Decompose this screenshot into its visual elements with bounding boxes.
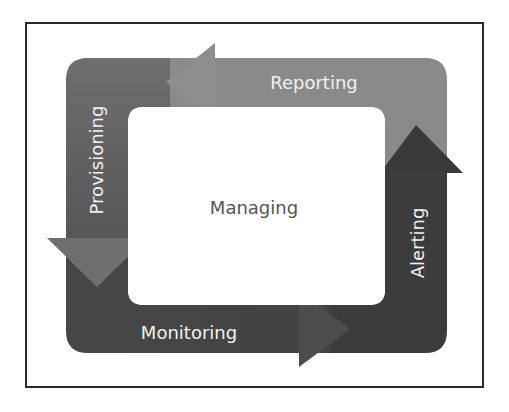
monitoring-label: Monitoring	[141, 324, 237, 342]
center-label: Managing	[210, 199, 298, 217]
alerting-label: Alerting	[409, 208, 427, 279]
reporting-label: Reporting	[270, 74, 358, 92]
provisioning-label: Provisioning	[88, 106, 106, 215]
